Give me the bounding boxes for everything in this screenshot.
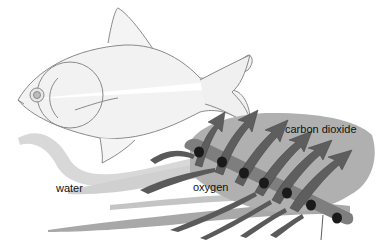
gill-diagram: carbon dioxide oxygen water (0, 0, 380, 245)
pointer-line (321, 215, 323, 240)
label-water: water (56, 183, 83, 194)
label-oxygen: oxygen (193, 182, 228, 193)
label-carbon-dioxide: carbon dioxide (285, 124, 357, 135)
